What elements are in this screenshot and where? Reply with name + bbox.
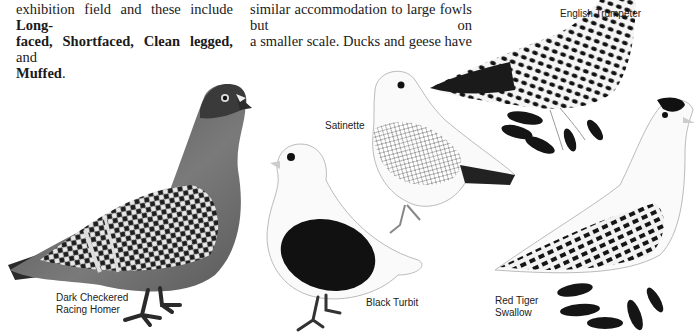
bold-term: Muffed (16, 65, 62, 81)
caption-english-trumpeter: English Trumpeter (560, 8, 641, 20)
caption-racing-homer: Dark Checkered Racing Homer (56, 292, 128, 316)
caption-black-turbit: Black Turbit (366, 297, 418, 309)
text-span: . (62, 65, 66, 81)
bold-term: faced, (16, 33, 53, 49)
caption-red-tiger-swallow: Red Tiger Swallow (495, 295, 538, 319)
caption-line: Dark Checkered (56, 292, 128, 304)
caption-line: Swallow (495, 307, 538, 319)
bold-term: Long- (16, 17, 53, 33)
bold-term: Clean legged, (144, 33, 233, 49)
text-column-left: exhibition field and these include Long-… (16, 1, 233, 81)
racing-homer-illustration (0, 80, 260, 335)
caption-line: Red Tiger (495, 295, 538, 307)
bold-term: Shortfaced, (63, 33, 134, 49)
text-line: Muffed. (16, 65, 233, 81)
caption-satinette: Satinette (325, 120, 364, 132)
text-span: exhibition field and these include (16, 1, 233, 17)
text-line: exhibition field and these include Long- (16, 1, 233, 33)
text-line: faced, Shortfaced, Clean legged, and (16, 33, 233, 65)
caption-line: Racing Homer (56, 304, 128, 316)
text-span: and (16, 49, 37, 65)
